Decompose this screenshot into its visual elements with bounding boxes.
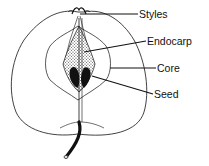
stem — [66, 122, 80, 157]
stem-tip — [64, 156, 68, 159]
fruit-diagram: Styles Endocarp Core Seed — [0, 0, 209, 166]
base-fold — [60, 122, 104, 128]
leader-endocarp — [84, 41, 146, 52]
label-styles: Styles — [139, 8, 168, 20]
label-endocarp: Endocarp — [147, 35, 192, 47]
label-seed: Seed — [154, 88, 179, 100]
label-core: Core — [157, 62, 180, 74]
leader-seed — [92, 76, 153, 94]
